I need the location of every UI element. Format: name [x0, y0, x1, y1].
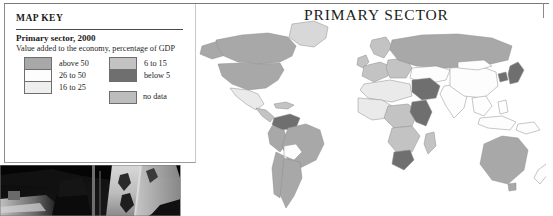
photo-post: [92, 165, 95, 216]
region-philippines: [498, 100, 508, 114]
world-map: .above50 { fill:#a8a8a8; } .v26to50 { fi…: [196, 18, 546, 216]
map-key-heading: MAP KEY: [16, 13, 63, 23]
legend-swatch-16-to-25: 16 to 25: [25, 81, 51, 93]
legend-swatch-26-to-50: 26 to 50: [25, 69, 51, 81]
page-title: PRIMARY SECTOR: [304, 6, 449, 24]
photograph: [0, 165, 181, 216]
photo-cable: [99, 171, 101, 216]
region-korea: [498, 72, 508, 82]
legend-label-16-to-25: 16 to 25: [59, 82, 86, 93]
legend-swatch-no-data: [109, 91, 137, 104]
map-key-panel: MAP KEY Primary sector, 2000 Value added…: [4, 4, 196, 163]
world-map-svg: .above50 { fill:#a8a8a8; } .v26to50 { fi…: [196, 18, 546, 216]
legend-swatch-6-to-15: 6 to 15: [110, 58, 136, 69]
legend-swatch-below-5: below 5: [110, 69, 136, 81]
page-root: .above50 { fill:#a8a8a8; } .v26to50 { fi…: [0, 0, 553, 216]
legend-label-26-to-50: 26 to 50: [59, 70, 86, 81]
map-key-divider: [16, 29, 183, 30]
photo-object-box: [8, 191, 20, 200]
map-key-subtitle: Primary sector, 2000: [16, 33, 95, 43]
legend-label-6-to-15: 6 to 15: [144, 58, 167, 69]
photograph-image: [0, 165, 181, 216]
region-tasmania: [508, 183, 516, 191]
legend-swatch-stack-right: 6 to 15 below 5: [109, 57, 137, 82]
legend-swatch-above-50: above 50: [25, 58, 51, 69]
map-key-description: Value added to the economy, percentage o…: [16, 44, 175, 53]
legend-swatch-stack-left: above 50 26 to 50 16 to 25: [24, 57, 52, 94]
region-russia: [390, 34, 512, 68]
legend-label-above-50: above 50: [59, 58, 89, 69]
legend-column-right: 6 to 15 below 5: [109, 57, 137, 82]
legend-column-no-data: no data: [109, 91, 137, 104]
legend-column-left: above 50 26 to 50 16 to 25: [24, 57, 52, 94]
legend-label-no-data: no data: [143, 91, 167, 102]
legend-label-below-5: below 5: [144, 70, 170, 81]
